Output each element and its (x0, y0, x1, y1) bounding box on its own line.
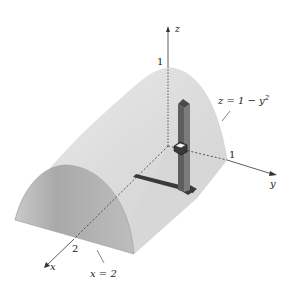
y-axis-arrow-icon (269, 171, 277, 176)
y-axis (227, 160, 272, 174)
diagram-canvas: z 1 1 y 2 x z = 1 − y2 x = 2 (0, 0, 295, 303)
y-axis-label: y (269, 178, 276, 189)
surface-label-leader (222, 111, 230, 121)
x-tick-2: 2 (72, 243, 78, 254)
plane-label-leader (97, 250, 104, 263)
surface-equation-label: z = 1 − y2 (217, 94, 270, 106)
x-axis-label: x (50, 261, 56, 272)
plane-equation-label: x = 2 (90, 268, 117, 279)
z-axis-arrow-icon (166, 26, 170, 32)
y-tick-1: 1 (229, 149, 235, 160)
z-axis-label: z (174, 24, 180, 34)
z-tick-1: 1 (157, 56, 163, 67)
